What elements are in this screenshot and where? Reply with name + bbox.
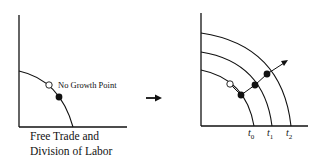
left-axes xyxy=(19,15,127,127)
filled-point xyxy=(56,94,63,101)
left-caption: Free Trade and Division of Labor xyxy=(30,129,112,159)
ppf-curve-t2 xyxy=(201,33,291,126)
transition-arrow xyxy=(146,95,162,102)
right-axes xyxy=(201,13,308,126)
caption-line-2: Division of Labor xyxy=(30,144,112,159)
filled-point-t1 xyxy=(252,82,259,89)
label-t0: t0 xyxy=(248,127,254,141)
no-growth-point-label: No Growth Point xyxy=(58,80,117,90)
label-t2: t2 xyxy=(286,127,292,141)
caption-line-1: Free Trade and xyxy=(30,129,112,144)
filled-point-t0 xyxy=(238,92,245,99)
no-growth-open-point xyxy=(46,82,52,88)
growth-arrowhead xyxy=(281,60,288,66)
filled-point-t2 xyxy=(264,71,271,78)
label-t1: t1 xyxy=(267,127,273,141)
open-point xyxy=(227,81,233,87)
ppf-curve-t0 xyxy=(201,70,254,126)
